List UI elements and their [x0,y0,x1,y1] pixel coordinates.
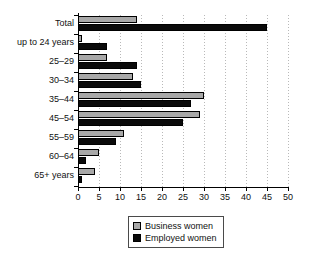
x-axis-tick [225,187,226,191]
y-axis-tick [74,53,78,54]
plot-area [78,15,288,187]
x-axis-tick-label: 25 [178,192,188,203]
bar-employed-women [78,119,183,126]
y-axis-tick [74,91,78,92]
legend-item-employed-women: Employed women [133,232,217,244]
x-axis-tick-label: 50 [283,192,293,203]
y-axis-tick [74,129,78,130]
bar-employed-women [78,138,116,145]
bar-group [78,73,288,92]
bar-employed-women [78,62,137,69]
y-axis-tick [74,167,78,168]
bar-employed-women [78,100,191,107]
x-axis-tick [288,187,289,191]
bar-business-women [78,16,137,23]
y-axis-tick [74,148,78,149]
x-axis-tick-label: 0 [75,192,80,203]
y-axis-labels: Total up to 24 years 25–29 30–34 35–44 4… [0,15,74,187]
x-axis-tick-label: 5 [96,192,101,203]
y-axis-tick [74,34,78,35]
y-axis-tick [74,15,78,16]
y-axis-tick [74,72,78,73]
legend-swatch-icon [133,234,141,242]
legend-swatch-icon [133,222,141,230]
bar-group [78,16,288,35]
x-axis-line [78,187,289,188]
bar-chart: Total up to 24 years 25–29 30–34 35–44 4… [0,0,309,258]
y-axis-tick-label: 60–64 [49,151,74,161]
bar-employed-women [78,43,107,50]
y-axis-tick-label: Total [55,18,74,28]
y-axis-tick-label: 65+ years [34,170,74,180]
bar-group [78,111,288,130]
bar-group [78,54,288,73]
x-axis-tick-label: 35 [220,192,230,203]
legend-label: Business women [145,221,213,232]
x-axis-tick [183,187,184,191]
bar-business-women [78,168,95,175]
x-axis-tick [267,187,268,191]
gridline-50 [288,15,289,187]
bar-business-women [78,149,99,156]
x-axis-tick-label: 45 [262,192,272,203]
x-axis-tick [120,187,121,191]
y-axis-tick-label: 45–54 [49,113,74,123]
x-axis-tick-label: 10 [115,192,125,203]
x-axis-tick-label: 15 [136,192,146,203]
y-axis-tick-label: up to 24 years [17,37,74,47]
bar-business-women [78,73,133,80]
x-axis-tick [162,187,163,191]
bar-group [78,149,288,168]
x-axis-tick [78,187,79,191]
x-axis-tick [204,187,205,191]
x-axis-tick [141,187,142,191]
x-axis-tick-label: 30 [199,192,209,203]
bar-group [78,168,288,187]
legend-label: Employed women [145,233,217,244]
x-axis-tick [246,187,247,191]
y-axis-tick [74,110,78,111]
y-axis-tick-label: 55–59 [49,132,74,142]
x-axis-labels: 0 5 10 15 20 25 30 35 40 45 50 [78,192,289,204]
bar-group [78,35,288,54]
bar-business-women [78,111,200,118]
bar-business-women [78,130,124,137]
y-axis-tick-label: 35–44 [49,94,74,104]
x-axis-tick-label: 20 [157,192,167,203]
bar-business-women [78,54,107,61]
bar-group [78,92,288,111]
bar-employed-women [78,81,141,88]
bar-group [78,130,288,149]
bar-employed-women [78,157,86,164]
bar-employed-women [78,24,267,31]
legend-item-business-women: Business women [133,220,217,232]
bar-business-women [78,92,204,99]
y-axis-tick-label: 30–34 [49,75,74,85]
bar-rows [78,15,288,187]
chart-legend: Business women Employed women [128,216,224,248]
y-axis-line [78,13,79,189]
x-axis-tick-label: 40 [241,192,251,203]
y-axis-tick-label: 25–29 [49,56,74,66]
x-axis-tick [99,187,100,191]
